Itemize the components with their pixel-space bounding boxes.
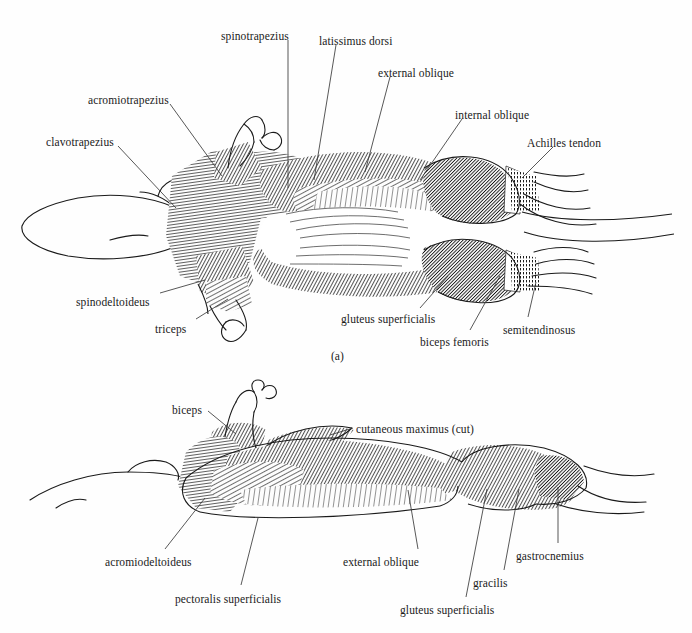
label-achilles-tendon: Achilles tendon: [527, 138, 601, 150]
label-spinodeltoideus: spinodeltoideus: [76, 297, 150, 309]
label-gastrocnemius: gastrocnemius: [516, 551, 584, 563]
label-biceps: biceps: [172, 405, 202, 417]
label-triceps: triceps: [155, 324, 186, 336]
label-cutaneous-maximus-cut: cutaneous maximus (cut): [356, 424, 474, 436]
panel-a-tag: (a): [331, 350, 344, 362]
label-acromiotrapezius: acromiotrapezius: [88, 95, 169, 107]
leader-achilles-tendon: [522, 147, 553, 178]
label-biceps-femoris: biceps femoris: [420, 337, 489, 349]
leader-lines: [118, 40, 558, 597]
leader-pectoralis-superficialis: [241, 518, 258, 585]
label-external-oblique: external oblique: [378, 68, 454, 80]
panel-b-drawing: [30, 380, 654, 520]
label-gracilis: gracilis: [473, 578, 508, 590]
label-latissimus-dorsi: latissimus dorsi: [319, 36, 392, 48]
label-semitendinosus: semitendinosus: [503, 325, 575, 337]
head-outline-b: [30, 460, 186, 508]
label-gluteus-superficialis-b: gluteus superficialis: [400, 605, 494, 617]
tail: [522, 212, 674, 241]
label-gluteus-superficialis: gluteus superficialis: [341, 314, 435, 326]
label-pectoralis-superficialis: pectoralis superficialis: [175, 594, 281, 606]
leader-acromiodeltoideus: [165, 498, 205, 549]
leader-spinodeltoideus: [160, 280, 205, 293]
label-clavotrapezius: clavotrapezius: [46, 137, 114, 149]
label-acromiodeltoideus: acromiodeltoideus: [105, 557, 192, 569]
label-external-oblique-b: external oblique: [343, 557, 419, 569]
label-internal-oblique: internal oblique: [455, 110, 529, 122]
anatomy-figure: spinotrapeziuslatissimus dorsiexternal o…: [0, 0, 692, 633]
label-spinotrapezius: spinotrapezius: [221, 31, 289, 43]
